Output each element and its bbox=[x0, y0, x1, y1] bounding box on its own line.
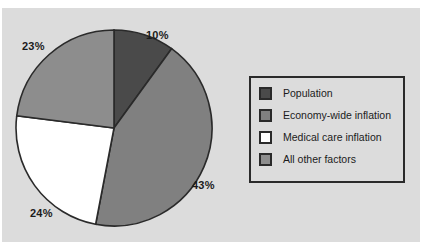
legend-swatch-economy-wide-inflation bbox=[259, 109, 272, 122]
legend-label-economy-wide-inflation: Economy-wide inflation bbox=[283, 109, 391, 122]
legend-item-all-other-factors[interactable]: All other factors bbox=[259, 153, 399, 166]
pie-label-medical-care-inflation: 24% bbox=[30, 207, 53, 219]
pie-chart bbox=[14, 28, 214, 228]
legend-item-medical-care-inflation[interactable]: Medical care inflation bbox=[259, 131, 399, 144]
pie-label-population: 10% bbox=[146, 29, 169, 41]
legend-item-economy-wide-inflation[interactable]: Economy-wide inflation bbox=[259, 109, 399, 122]
legend-label-medical-care-inflation: Medical care inflation bbox=[283, 131, 382, 144]
chart-panel: 10% 23% 43% 24% Population Economy-wide … bbox=[2, 8, 420, 242]
pie-chart-figure: 10% 23% 43% 24% Population Economy-wide … bbox=[0, 0, 424, 245]
legend-swatch-all-other-factors bbox=[259, 153, 272, 166]
legend-rows: Population Economy-wide inflation Medica… bbox=[259, 87, 399, 166]
pie-label-all-other-factors: 23% bbox=[22, 40, 45, 52]
legend-label-population: Population bbox=[283, 87, 333, 100]
pie-svg bbox=[14, 28, 214, 228]
legend: Population Economy-wide inflation Medica… bbox=[249, 76, 405, 183]
pie-label-economy-wide-inflation: 43% bbox=[192, 179, 215, 191]
legend-swatch-medical-care-inflation bbox=[259, 131, 272, 144]
legend-label-all-other-factors: All other factors bbox=[283, 153, 356, 166]
legend-swatch-population bbox=[259, 87, 272, 100]
legend-item-population[interactable]: Population bbox=[259, 87, 399, 100]
